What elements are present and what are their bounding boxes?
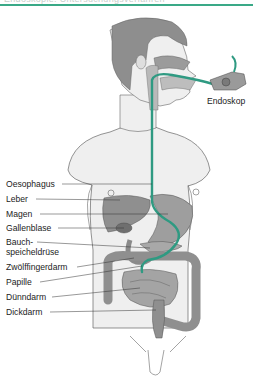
label-duenndarm: Dünndarm	[6, 292, 46, 302]
label-bauch: Bauch-	[6, 237, 33, 247]
anatomy-illustration	[0, 0, 253, 387]
label-zwoelffingerdarm: Zwölffingerdarm	[6, 262, 67, 272]
label-gallenblase: Gallenblase	[6, 223, 51, 233]
endoscope-handle-icon	[210, 56, 246, 90]
label-leber: Leber	[6, 194, 28, 204]
ear	[136, 55, 146, 69]
label-speicheldruese: speicheldrüse	[6, 247, 59, 257]
label-endoskop: Endoskop	[207, 96, 245, 106]
rectum	[152, 300, 164, 338]
label-oesophagus: Oesophagus	[6, 179, 55, 189]
label-magen: Magen	[6, 209, 32, 219]
label-dickdarm: Dickdarm	[6, 307, 42, 317]
label-papille: Papille	[6, 277, 32, 287]
nipple-right	[193, 189, 199, 195]
